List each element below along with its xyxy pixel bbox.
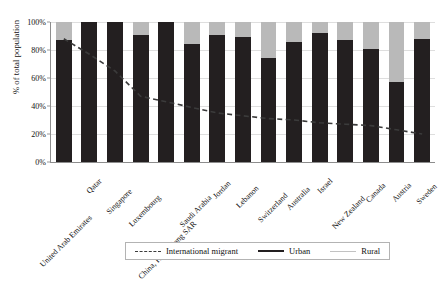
x-axis-tick-labels: United Arab EmiratesQatarSingaporeLuxemb… — [50, 164, 434, 234]
international-migrant-line — [51, 22, 435, 162]
y-axis-tick-label: 40% — [31, 102, 46, 111]
x-axis-tick-label: Qatar — [85, 177, 104, 196]
y-axis-tick-label: 60% — [31, 74, 46, 83]
legend-item-label: Urban — [289, 246, 310, 256]
x-axis-tick-label: Australia — [285, 185, 312, 212]
plot-area — [50, 22, 435, 163]
x-axis-tick-label: Sweden — [415, 182, 439, 206]
y-axis-tick-label: 0% — [35, 158, 46, 167]
solid-gray-line-swatch — [330, 251, 356, 252]
y-axis-tick-label: 80% — [31, 46, 46, 55]
legend-item-label: International migrant — [166, 246, 238, 256]
x-axis-tick-label: New Zealand — [331, 194, 368, 231]
x-axis-tick-label: Jordan — [212, 179, 233, 200]
legend-item-label: Rural — [361, 246, 380, 256]
x-axis-tick-label: Singapore — [105, 187, 134, 216]
chart-legend: International migrantUrbanRural — [125, 242, 390, 260]
solid-black-line-swatch — [258, 250, 284, 252]
x-axis-tick-label: Switzerland — [256, 191, 289, 224]
x-axis-tick-label: Austria — [390, 181, 413, 204]
x-axis-tick-label: Lebanon — [234, 184, 260, 210]
legend-item[interactable]: Rural — [330, 246, 380, 256]
x-axis-tick-label: Israel — [315, 177, 334, 196]
y-axis-tick-labels: 0%20%40%60%80%100% — [10, 0, 46, 268]
legend-item[interactable]: International migrant — [135, 246, 238, 256]
dashed-line-swatch — [135, 251, 161, 252]
y-axis-tick-label: 100% — [27, 18, 46, 27]
x-axis-tick-label: Luxembourg — [127, 193, 162, 228]
legend-item[interactable]: Urban — [258, 246, 310, 256]
x-axis-tick-label: Canada — [364, 181, 387, 204]
y-axis-tick-label: 20% — [31, 130, 46, 139]
x-axis-tick-label: United Arab Emirates — [38, 213, 94, 269]
